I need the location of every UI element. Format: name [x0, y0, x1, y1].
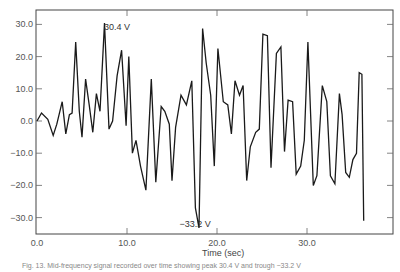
y-tick-label: 20.0 — [15, 52, 33, 62]
line-chart: 30.020.010.00.0−10.0−20.0−30.0 0.010.020… — [0, 0, 400, 262]
x-tick-label: 0.0 — [31, 238, 44, 248]
y-tick-label: 0.0 — [20, 116, 33, 126]
y-tick-label: −20.0 — [10, 180, 33, 190]
x-tick-label: 20.0 — [208, 238, 226, 248]
x-tick-label: 10.0 — [118, 238, 136, 248]
y-tick-label: 30.0 — [15, 19, 33, 29]
trough-annotation: −33.2 V — [180, 219, 211, 229]
y-tick-label: −10.0 — [10, 148, 33, 158]
figure-caption: Fig. 13. Mid-frequency signal recorded o… — [22, 262, 400, 272]
y-tick-label: −30.0 — [10, 213, 33, 223]
y-tick-label: 10.0 — [15, 84, 33, 94]
x-tick-label: 30.0 — [298, 238, 316, 248]
peak-annotation: 30.4 V — [104, 22, 130, 32]
x-axis-label: Time (sec) — [202, 248, 244, 258]
plot-frame — [36, 10, 393, 234]
voltage-series-line — [37, 23, 364, 228]
